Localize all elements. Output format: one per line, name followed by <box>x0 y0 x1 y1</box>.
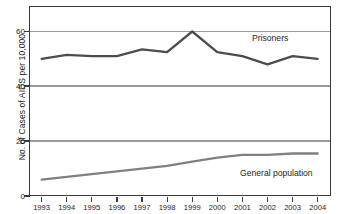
x-tick-label-2004: 2004 <box>303 203 333 212</box>
y-tick-marks <box>24 32 30 197</box>
x-tick-marks <box>42 197 318 202</box>
chart-vectors <box>0 0 344 214</box>
aids-cases-line-chart: No. of Cases of AIDS per 10,000 60 40 20… <box>0 0 344 214</box>
gridlines <box>30 32 331 142</box>
series-label-prisoners: Prisoners <box>252 33 288 43</box>
series-label-general-population: General population <box>240 168 313 178</box>
